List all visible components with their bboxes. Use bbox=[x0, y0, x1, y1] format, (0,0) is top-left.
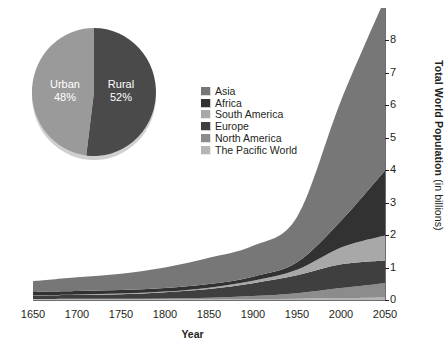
legend-swatch-icon bbox=[201, 146, 211, 155]
pie-slice-group bbox=[32, 28, 156, 156]
y-axis-title-unit: (in billions) bbox=[433, 179, 445, 230]
legend-swatch-icon bbox=[201, 87, 211, 96]
y-axis-title-main: Total World Population bbox=[433, 60, 445, 176]
x-tick-label: 1650 bbox=[21, 308, 45, 320]
y-tick-mark bbox=[385, 203, 389, 204]
pie-svg bbox=[18, 16, 170, 168]
y-axis-title: Total World Population (in billions) bbox=[433, 60, 445, 231]
legend-item-europe[interactable]: Europe bbox=[201, 121, 311, 132]
x-tick-label: 2050 bbox=[373, 308, 397, 320]
x-tick-label: 1850 bbox=[197, 308, 221, 320]
legend-item-asia[interactable]: Asia bbox=[201, 86, 311, 97]
legend-item-label: South America bbox=[215, 109, 283, 120]
x-tick-label: 1700 bbox=[65, 308, 89, 320]
pie-slice-urban bbox=[32, 28, 94, 156]
y-tick-mark bbox=[385, 73, 389, 74]
legend-item-label: Asia bbox=[215, 86, 235, 97]
legend-item-label: The Pacific World bbox=[215, 145, 297, 156]
legend-item-the-pacific-world[interactable]: The Pacific World bbox=[201, 144, 311, 155]
y-tick-mark bbox=[385, 235, 389, 236]
x-tick-label: 1750 bbox=[109, 308, 133, 320]
y-tick-label: 1 bbox=[390, 262, 396, 273]
y-axis-line bbox=[385, 8, 386, 300]
x-tick-label: 2000 bbox=[329, 308, 353, 320]
y-tick-mark bbox=[385, 40, 389, 41]
legend-item-africa[interactable]: Africa bbox=[201, 98, 311, 109]
legend-swatch-icon bbox=[201, 134, 211, 143]
pie-slice-rural bbox=[86, 28, 156, 156]
y-tick-label: 8 bbox=[390, 34, 396, 45]
y-tick-label: 7 bbox=[390, 67, 396, 78]
y-tick-label: 6 bbox=[390, 99, 396, 110]
x-axis: 165017001750180018501900195020002050 Yea… bbox=[0, 300, 445, 349]
y-tick-mark bbox=[385, 105, 389, 106]
x-axis-title: Year bbox=[0, 328, 385, 340]
x-tick-label: 1900 bbox=[241, 308, 265, 320]
legend-item-label: Europe bbox=[215, 121, 249, 132]
legend-item-north-america[interactable]: North America bbox=[201, 133, 311, 144]
x-tick-label: 1950 bbox=[285, 308, 309, 320]
legend-item-label: North America bbox=[215, 133, 282, 144]
y-tick-mark bbox=[385, 170, 389, 171]
urban-rural-pie-chart: Urban 48% Rural 52% bbox=[18, 16, 170, 168]
y-tick-label: 3 bbox=[390, 197, 396, 208]
y-tick-mark bbox=[385, 268, 389, 269]
y-tick-mark bbox=[385, 138, 389, 139]
y-tick-label: 5 bbox=[390, 132, 396, 143]
y-tick-label: 4 bbox=[390, 164, 396, 175]
chart-legend: AsiaAfricaSouth AmericaEuropeNorth Ameri… bbox=[201, 86, 311, 156]
legend-swatch-icon bbox=[201, 110, 211, 119]
legend-item-south-america[interactable]: South America bbox=[201, 109, 311, 120]
legend-swatch-icon bbox=[201, 122, 211, 131]
y-tick-label: 2 bbox=[390, 229, 396, 240]
y-axis: 012345678 Total World Population (in bil… bbox=[385, 0, 445, 310]
legend-item-label: Africa bbox=[215, 98, 242, 109]
x-tick-label: 1800 bbox=[153, 308, 177, 320]
x-axis-line bbox=[33, 300, 385, 301]
legend-swatch-icon bbox=[201, 99, 211, 108]
